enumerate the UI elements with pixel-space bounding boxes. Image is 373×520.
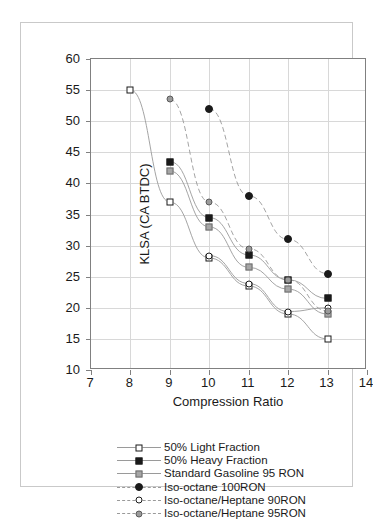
legend-item: 50% Heavy Fraction — [117, 454, 306, 467]
data-point-marker — [166, 158, 173, 165]
data-point-marker — [205, 105, 213, 113]
legend-marker-sample — [117, 442, 161, 454]
chart-legend: 50% Light Fraction50% Heavy FractionStan… — [117, 441, 306, 520]
gridline-horizontal — [91, 246, 365, 247]
data-point-marker — [245, 245, 252, 252]
legend-marker-icon — [136, 444, 143, 451]
x-tick-label: 10 — [201, 375, 215, 390]
legend-label: Standard Gasoline 95 RON — [164, 467, 304, 480]
y-tick-label: 50 — [20, 113, 80, 128]
data-point-marker — [285, 308, 292, 315]
legend-item: Standard Gasoline 95 RON — [117, 467, 306, 480]
data-point-marker — [245, 251, 252, 258]
gridline-horizontal — [91, 277, 365, 278]
y-tick — [86, 308, 91, 309]
legend-marker-sample — [117, 508, 161, 520]
y-tick-label: 20 — [20, 299, 80, 314]
legend-marker-icon — [136, 457, 143, 464]
data-point-marker — [324, 295, 331, 302]
gridline-vertical — [130, 59, 131, 368]
legend-marker-sample — [117, 481, 161, 493]
y-tick-label: 30 — [20, 237, 80, 252]
y-tick-label: 15 — [20, 330, 80, 345]
legend-marker-sample — [117, 468, 161, 480]
x-tick-label: 7 — [86, 375, 93, 390]
legend-marker-icon — [136, 497, 143, 504]
y-tick — [86, 339, 91, 340]
data-point-marker — [166, 167, 173, 174]
gridline-horizontal — [91, 152, 365, 153]
y-tick — [86, 121, 91, 122]
y-tick — [86, 215, 91, 216]
data-point-marker — [284, 235, 292, 243]
legend-label: Iso-octane 100RON — [164, 481, 266, 494]
y-axis-title: KLSA (CA BTDC) — [137, 104, 152, 324]
x-tick-label: 11 — [241, 375, 255, 390]
y-tick — [86, 152, 91, 153]
legend-label: Iso-octane/Heptane 90RON — [164, 494, 306, 507]
plot-area — [90, 58, 366, 369]
data-point-marker — [324, 270, 332, 278]
legend-marker-sample — [117, 494, 161, 506]
data-point-marker — [206, 252, 213, 259]
y-tick — [86, 370, 91, 371]
x-axis-title: Compression Ratio — [90, 394, 366, 409]
series-line — [209, 256, 327, 312]
y-tick — [86, 183, 91, 184]
y-tick-label: 25 — [20, 268, 80, 283]
legend-label: Iso-octane/Heptane 95RON — [164, 507, 306, 520]
gridline-horizontal — [91, 183, 365, 184]
data-point-marker — [285, 276, 292, 283]
x-tick-label: 9 — [165, 375, 172, 390]
data-point-marker — [166, 96, 173, 103]
legend-label: 50% Light Fraction — [164, 441, 260, 454]
y-tick-label: 55 — [20, 82, 80, 97]
gridline-vertical — [288, 59, 289, 368]
y-tick — [86, 59, 91, 60]
legend-marker-icon — [136, 510, 143, 517]
gridline-horizontal — [91, 121, 365, 122]
data-point-marker — [324, 307, 331, 314]
legend-item: Iso-octane 100RON — [117, 481, 306, 494]
y-tick-label: 10 — [20, 362, 80, 377]
x-tick-label: 12 — [280, 375, 294, 390]
legend-marker-icon — [135, 483, 143, 491]
data-point-marker — [245, 280, 252, 287]
x-tick-label: 13 — [319, 375, 333, 390]
data-point-marker — [206, 199, 213, 206]
series-line — [209, 109, 327, 274]
data-point-marker — [285, 286, 292, 293]
data-point-marker — [127, 87, 134, 94]
data-point-marker — [166, 199, 173, 206]
y-tick — [86, 246, 91, 247]
data-point-marker — [324, 335, 331, 342]
y-tick — [86, 90, 91, 91]
y-tick-label: 35 — [20, 206, 80, 221]
y-tick-label: 40 — [20, 175, 80, 190]
legend-marker-icon — [136, 470, 143, 477]
data-point-marker — [245, 264, 252, 271]
data-point-marker — [206, 214, 213, 221]
y-tick-label: 45 — [20, 144, 80, 159]
y-tick-label: 60 — [20, 51, 80, 66]
x-tick-label: 14 — [359, 375, 373, 390]
data-point-marker — [206, 223, 213, 230]
y-tick — [86, 277, 91, 278]
legend-item: Iso-octane/Heptane 90RON — [117, 494, 306, 507]
gridline-vertical — [249, 59, 250, 368]
legend-marker-sample — [117, 455, 161, 467]
gridline-vertical — [170, 59, 171, 368]
gridline-horizontal — [91, 215, 365, 216]
figure-frame: 1015202530354045505560 7891011121314 Com… — [20, 22, 353, 487]
data-point-marker — [245, 192, 253, 200]
legend-item: 50% Light Fraction — [117, 441, 306, 454]
x-tick-label: 8 — [126, 375, 133, 390]
gridline-vertical — [328, 59, 329, 368]
legend-label: 50% Heavy Fraction — [164, 454, 268, 467]
legend-item: Iso-octane/Heptane 95RON — [117, 507, 306, 520]
